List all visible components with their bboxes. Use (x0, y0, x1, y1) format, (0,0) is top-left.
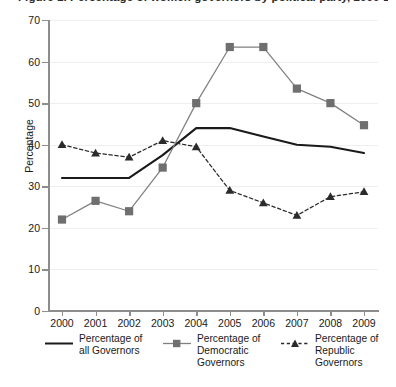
data-point-square-marker (226, 43, 234, 51)
data-point-square-marker (91, 197, 99, 205)
data-point-square-marker (326, 99, 334, 107)
data-point-triangle-marker (225, 186, 234, 194)
line-chart-figure: Figure 1. Percentage of women governors … (0, 0, 396, 387)
data-point-square-marker (259, 43, 267, 51)
data-point-triangle-marker (158, 136, 167, 144)
series-1 (62, 128, 364, 178)
legend-label-all-governors: Percentage of all Governors (79, 333, 152, 357)
chart-legend: Percentage of all Governors Percentage o… (44, 333, 388, 385)
legend-entry-all-governors: Percentage of all Governors (44, 333, 152, 357)
data-point-triangle-marker (259, 199, 268, 207)
data-point-triangle-marker (125, 153, 134, 161)
data-point-triangle-marker (292, 211, 301, 219)
series-plot-layer (0, 0, 396, 387)
data-point-square-marker (125, 207, 133, 215)
data-point-square-marker (58, 215, 66, 223)
series-line (62, 128, 364, 178)
legend-entry-republic-governors: Percentage of Republic Governors (280, 333, 388, 370)
solid-line-key-icon (44, 335, 74, 346)
legend-entry-democratic-governors: Percentage of Democratic Governors (162, 333, 270, 370)
legend-label-republic-governors: Percentage of Republic Governors (315, 333, 388, 370)
triangle-marker-key-icon (280, 335, 310, 346)
data-point-triangle-marker (192, 142, 201, 150)
square-marker-key-icon (162, 335, 192, 346)
data-point-square-marker (293, 84, 301, 92)
legend-label-democratic-governors: Percentage of Democratic Governors (197, 333, 270, 370)
data-point-square-marker (159, 163, 167, 171)
data-point-square-marker (192, 99, 200, 107)
data-point-triangle-marker (360, 187, 369, 195)
data-point-triangle-marker (58, 140, 67, 148)
data-point-square-marker (360, 121, 368, 129)
series-line (62, 47, 364, 220)
series-2 (58, 43, 368, 224)
